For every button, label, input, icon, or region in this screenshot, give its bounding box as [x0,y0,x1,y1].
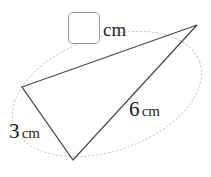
side-label-3cm: 3cm [9,121,40,142]
side-3-unit: cm [22,125,40,141]
triangle-outline [22,25,197,160]
side-6-value: 6 [129,97,140,121]
unit-label-missing-side: cm [103,20,126,39]
side-6-unit: cm [142,103,160,119]
missing-length-input[interactable] [68,12,100,44]
side-3-value: 3 [9,119,20,143]
side-label-6cm: 6cm [129,99,160,120]
geometry-figure: cm 6cm 3cm [0,0,211,177]
